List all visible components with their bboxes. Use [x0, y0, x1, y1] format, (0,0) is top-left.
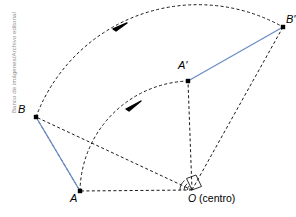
radius-line-OBprime [192, 27, 283, 190]
origin-annotation: (centro) [199, 192, 235, 204]
origin-symbol: O [188, 192, 196, 204]
rotation-arc-A-to-Aprime [80, 81, 188, 191]
radius-line-OAprime [188, 81, 192, 190]
point-marker-Bprime [281, 25, 285, 29]
point-label-A: A [70, 193, 77, 204]
point-label-Bprime: B' [286, 14, 295, 25]
rotation-figure: A B A' B' O (centro) Banco de imágenes/A… [0, 0, 296, 217]
point-marker-B [34, 115, 38, 119]
rotation-direction-arrow-outer [113, 23, 127, 31]
point-label-Aprime: A' [178, 60, 187, 71]
origin-label: O (centro) [188, 193, 235, 204]
point-marker-A [78, 189, 82, 193]
segment-AB [36, 117, 80, 191]
rotation-direction-arrow-inner [126, 101, 141, 111]
image-credit: Banco de imágenes/Archivo editorial [11, 13, 17, 113]
rotation-angle-marker [180, 175, 202, 190]
point-marker-Aprime [186, 79, 190, 83]
radius-line-OB [36, 117, 192, 190]
segment-AprimeBprime [188, 27, 283, 81]
rotation-arc-B-to-Bprime [36, 5, 283, 117]
point-label-B: B [18, 104, 25, 115]
geometry-canvas [0, 0, 296, 217]
radius-line-OA [80, 190, 192, 191]
